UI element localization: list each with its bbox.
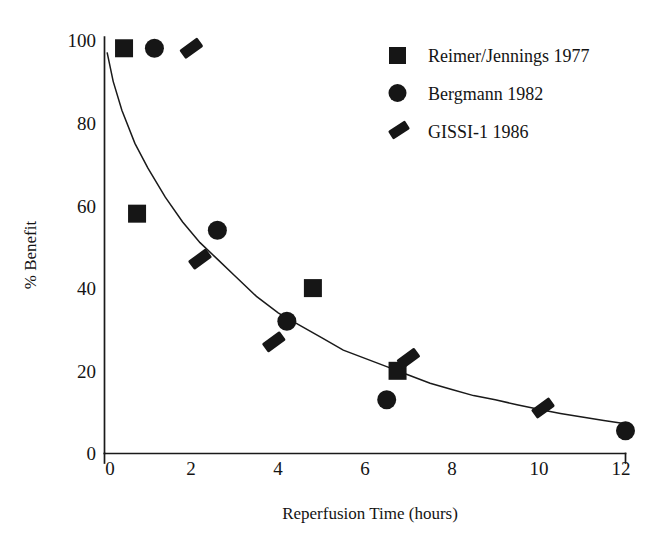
legend-label-bergmann: Bergmann 1982 xyxy=(428,84,543,104)
y-tick-label-20: 20 xyxy=(77,361,96,382)
data-point-square xyxy=(128,205,146,223)
legend-label-gissi: GISSI-1 1986 xyxy=(428,122,529,142)
data-point-circle xyxy=(145,39,164,58)
x-tick-label-8: 8 xyxy=(447,458,457,479)
legend: Reimer/Jennings 1977 Bergmann 1982 GISSI… xyxy=(388,46,590,142)
fit-trend-curve xyxy=(107,52,625,423)
x-tick-label-12: 12 xyxy=(612,458,631,479)
x-tick-label-2: 2 xyxy=(186,458,196,479)
x-tick-labels: 0 2 4 6 8 10 12 xyxy=(105,458,630,479)
chart-svg: 100 80 60 40 20 0 0 2 4 6 8 10 12 Reperf… xyxy=(0,0,660,543)
data-point-circle xyxy=(377,390,396,409)
y-tick-label-100: 100 xyxy=(68,30,97,51)
legend-label-reimer-jennings: Reimer/Jennings 1977 xyxy=(428,46,589,66)
legend-marker-square-icon xyxy=(389,47,406,64)
data-point-square xyxy=(304,279,322,297)
series-1-markers xyxy=(115,39,407,380)
y-tick-label-40: 40 xyxy=(77,278,96,299)
x-tick-label-6: 6 xyxy=(360,458,370,479)
x-tick-label-10: 10 xyxy=(530,458,549,479)
y-tick-label-0: 0 xyxy=(87,443,97,464)
data-point-square xyxy=(115,39,133,57)
x-tick-label-0: 0 xyxy=(105,458,115,479)
legend-marker-circle-icon xyxy=(389,84,407,102)
legend-marker-slash-icon xyxy=(388,120,410,139)
data-point-slash xyxy=(531,397,555,419)
legend-entry-reimer-jennings[interactable]: Reimer/Jennings 1977 xyxy=(389,46,589,66)
data-point-slash xyxy=(262,331,286,353)
y-tick-label-60: 60 xyxy=(77,196,96,217)
data-point-circle xyxy=(208,221,227,240)
data-point-circle xyxy=(277,312,296,331)
x-tick-label-4: 4 xyxy=(273,458,283,479)
y-tick-label-80: 80 xyxy=(77,113,96,134)
y-axis-title: % Benefit xyxy=(21,221,40,290)
x-axis-title: Reperfusion Time (hours) xyxy=(282,504,458,523)
data-point-slash xyxy=(179,37,203,59)
legend-entry-gissi[interactable]: GISSI-1 1986 xyxy=(388,120,529,142)
data-markers-layer xyxy=(115,37,635,440)
y-tick-labels: 100 80 60 40 20 0 xyxy=(68,30,97,464)
chart-container: 100 80 60 40 20 0 0 2 4 6 8 10 12 Reperf… xyxy=(0,0,660,543)
data-point-circle xyxy=(616,421,635,440)
series-2-markers xyxy=(145,39,635,440)
legend-entry-bergmann[interactable]: Bergmann 1982 xyxy=(389,84,544,104)
